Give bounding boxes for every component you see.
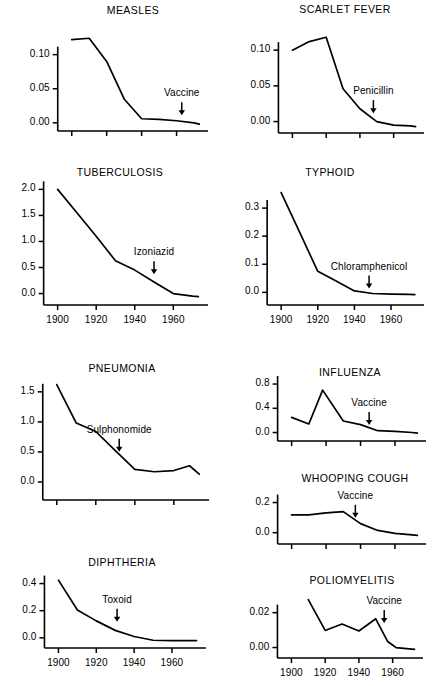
y-tick-label-tuberculosis: 0.5 <box>6 261 36 272</box>
panel-title-typhoid: TYPHOID <box>240 166 420 178</box>
y-tick-label-measles: 0.00 <box>16 116 50 127</box>
y-tick-label-typhoid: 0.1 <box>231 257 259 268</box>
x-tick-label-diphtheria: 1920 <box>76 657 116 668</box>
plot-area-whooping-cough <box>283 492 436 560</box>
y-tick-label-influenza: 0.8 <box>240 377 270 388</box>
annotation-label-influenza: Vaccine <box>299 397 436 408</box>
y-tick-label-diphtheria: 0.0 <box>6 631 36 642</box>
x-tick-label-tuberculosis: 1960 <box>153 314 193 325</box>
y-tick-label-typhoid: 0.0 <box>231 285 259 296</box>
y-tick-label-tuberculosis: 1.5 <box>6 208 36 219</box>
y-tick-label-diphtheria: 0.4 <box>6 577 36 588</box>
y-tick-label-tuberculosis: 0.0 <box>6 287 36 298</box>
x-tick-label-diphtheria: 1900 <box>38 657 78 668</box>
annotation-label-diphtheria: Toxoid <box>47 594 187 605</box>
x-tick-label-typhoid: 1940 <box>334 314 374 325</box>
y-tick-label-pneumonia: 0.0 <box>5 475 35 486</box>
y-tick-label-tuberculosis: 1.0 <box>6 234 36 245</box>
panel-title-influenza: INFLUENZA <box>260 366 436 378</box>
y-tick-label-scarlet-fever: 0.00 <box>236 115 270 126</box>
panel-title-measles: MEASLES <box>43 4 223 16</box>
x-tick-label-diphtheria: 1960 <box>152 657 192 668</box>
y-tick-label-influenza: 0.4 <box>240 401 270 412</box>
x-tick-label-tuberculosis: 1940 <box>115 314 155 325</box>
y-tick-label-whooping-cough: 0.0 <box>240 526 270 537</box>
annotation-label-tuberculosis: Izoniazid <box>84 246 224 257</box>
y-tick-label-typhoid: 0.2 <box>231 229 259 240</box>
y-tick-label-whooping-cough: 0.2 <box>240 496 270 507</box>
x-tick-label-typhoid: 1900 <box>261 314 301 325</box>
y-tick-label-pneumonia: 1.0 <box>5 415 35 426</box>
x-tick-label-diphtheria: 1940 <box>114 657 154 668</box>
y-tick-label-scarlet-fever: 0.05 <box>236 79 270 90</box>
panel-title-tuberculosis: TUBERCULOSIS <box>30 166 210 178</box>
panel-title-poliomyelitis: POLIOMYELITIS <box>262 574 436 586</box>
x-tick-label-tuberculosis: 1920 <box>76 314 116 325</box>
plot-area-diphtheria <box>49 570 226 664</box>
x-tick-label-typhoid: 1960 <box>371 314 411 325</box>
annotation-label-measles: Vaccine <box>112 87 252 98</box>
y-tick-label-scarlet-fever: 0.10 <box>236 43 270 54</box>
y-tick-label-pneumonia: 0.5 <box>5 445 35 456</box>
panel-title-whooping-cough: WHOOPING COUGH <box>265 472 436 484</box>
y-tick-label-tuberculosis: 2.0 <box>6 182 36 193</box>
annotation-label-poliomyelitis: Vaccine <box>314 595 436 606</box>
plot-area-pneumonia <box>47 375 229 516</box>
plot-area-influenza <box>283 378 436 457</box>
annotation-label-pneumonia: Sulphonomide <box>49 424 189 435</box>
panel-title-scarlet-fever: SCARLET FEVER <box>255 3 435 15</box>
y-tick-label-poliomyelitis: 0.02 <box>235 606 269 617</box>
plot-area-typhoid <box>272 180 436 321</box>
x-tick-label-poliomyelitis: 1960 <box>373 667 413 678</box>
annotation-label-whooping-cough: Vaccine <box>285 490 425 501</box>
panel-title-diphtheria: DIPHTHERIA <box>32 556 212 568</box>
y-tick-label-influenza: 0.0 <box>240 426 270 437</box>
y-tick-label-measles: 0.05 <box>16 82 50 93</box>
y-tick-label-poliomyelitis: 0.00 <box>235 641 269 652</box>
annotation-label-typhoid: Chloramphenicol <box>299 261 436 272</box>
x-tick-label-typhoid: 1920 <box>298 314 338 325</box>
y-tick-label-typhoid: 0.3 <box>231 201 259 212</box>
annotation-label-scarlet-fever: Penicillin <box>303 85 436 96</box>
y-tick-label-measles: 0.10 <box>16 48 50 59</box>
x-tick-label-tuberculosis: 1900 <box>38 314 78 325</box>
panel-title-pneumonia: PNEUMONIA <box>32 362 212 374</box>
y-tick-label-pneumonia: 1.5 <box>5 385 35 396</box>
y-tick-label-diphtheria: 0.2 <box>6 604 36 615</box>
